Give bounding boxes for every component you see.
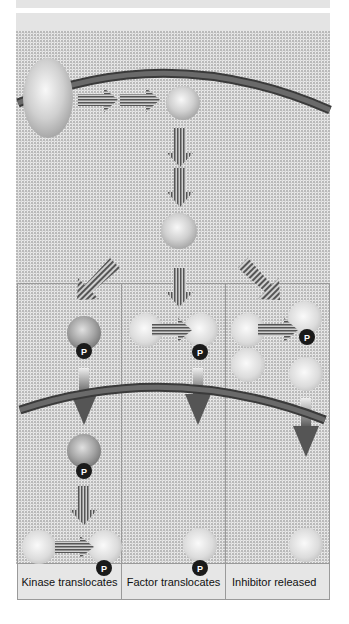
arrow-branch-left [77,258,120,300]
arrow-down-2 [167,168,193,207]
arrow-right-2 [120,88,160,112]
arrow-translocate-2 [185,368,211,425]
arrow-branch-center [166,268,193,307]
arrow-down-kinase [70,486,97,525]
inhibitor-3 [231,348,265,382]
phospho-badge: P [76,463,92,479]
phospho-badge: P [192,344,208,360]
phospho-badge: P [96,560,112,576]
factor-in-nucleus [183,528,217,562]
released-factor-3 [289,357,323,391]
arrow-right-1 [78,88,118,112]
pathway-diagram: P P P P [0,0,349,624]
svg-text:P: P [197,348,203,358]
arrow-branch-right [238,258,280,300]
svg-text:P: P [304,333,310,343]
receptor [23,58,73,138]
svg-text:P: P [81,467,87,477]
factor-in-nucleus-3 [289,528,323,562]
arrow-down-1 [167,128,193,167]
kinase-in-nucleus [67,434,101,468]
phospho-badge: P [192,560,208,576]
phospho-badge: P [76,343,92,359]
signal-molecule-2 [161,213,197,249]
signal-molecule-1 [166,86,200,120]
arrow-phosphorylate-nucleus [55,536,94,558]
phospho-badge: P [299,329,315,345]
svg-text:P: P [81,347,87,357]
target-inhibitor-1 [22,530,56,564]
svg-text:P: P [197,564,203,574]
svg-text:P: P [101,564,107,574]
